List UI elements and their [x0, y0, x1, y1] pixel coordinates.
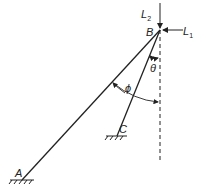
label-b: B — [146, 26, 153, 38]
ground-support-c — [105, 136, 127, 140]
member-cb — [117, 30, 160, 136]
label-c: C — [119, 123, 127, 135]
member-ab — [22, 30, 160, 180]
label-theta: θ — [150, 62, 156, 74]
label-l1: L1 — [183, 25, 193, 39]
label-a: A — [14, 167, 22, 179]
ground-support-a — [9, 180, 34, 184]
phi-arc — [113, 83, 158, 102]
label-phi: ϕ — [125, 82, 131, 94]
label-l2: L2 — [141, 8, 151, 22]
linkage-diagram: L2 L1 B θ ϕ C A — [0, 0, 201, 193]
